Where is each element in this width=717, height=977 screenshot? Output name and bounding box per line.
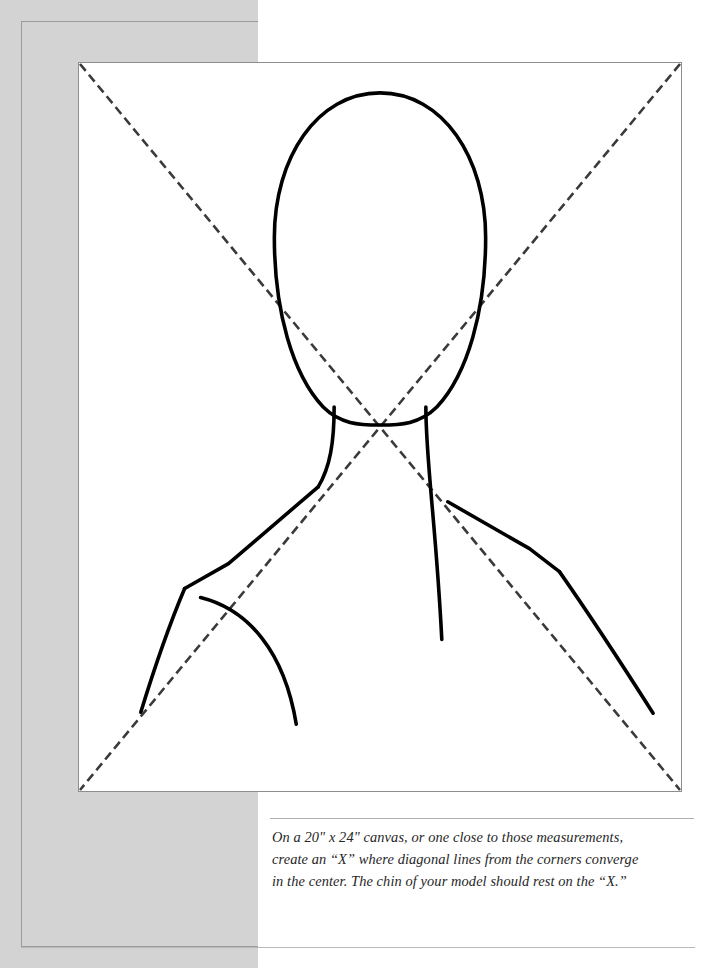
caption-line-2: create an “X” where diagonal lines from …	[272, 848, 692, 870]
head-oval	[274, 93, 485, 425]
drawing-card	[78, 62, 682, 792]
caption-line-1: On a 20" x 24" canvas, or one close to t…	[272, 826, 692, 848]
neck-right	[426, 407, 442, 639]
chest-curve	[201, 598, 297, 725]
caption-line-3: in the center. The chin of your model sh…	[272, 870, 692, 892]
arm-left	[141, 589, 185, 713]
neck-left	[318, 407, 334, 487]
arm-right	[559, 572, 653, 714]
page-root: On a 20" x 24" canvas, or one close to t…	[0, 0, 717, 977]
instruction-caption: On a 20" x 24" canvas, or one close to t…	[272, 826, 692, 893]
caption-divider-rule	[270, 818, 694, 819]
head-and-shoulders-illustration	[79, 63, 681, 791]
shoulder-left	[185, 487, 319, 589]
shoulder-right	[448, 502, 560, 572]
diagonal-guide-lines	[80, 64, 680, 790]
page-baseline-rule	[21, 947, 695, 948]
